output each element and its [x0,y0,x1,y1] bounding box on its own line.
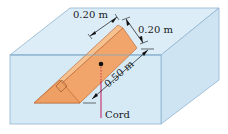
center-dot [99,62,104,67]
buoyancy-diagram: 0.20 m 0.20 m 0.50 m Cord [0,0,228,134]
label-top-depth: 0.20 m [138,24,173,35]
label-cord: Cord [105,109,130,120]
label-top-width: 0.20 m [73,9,108,20]
